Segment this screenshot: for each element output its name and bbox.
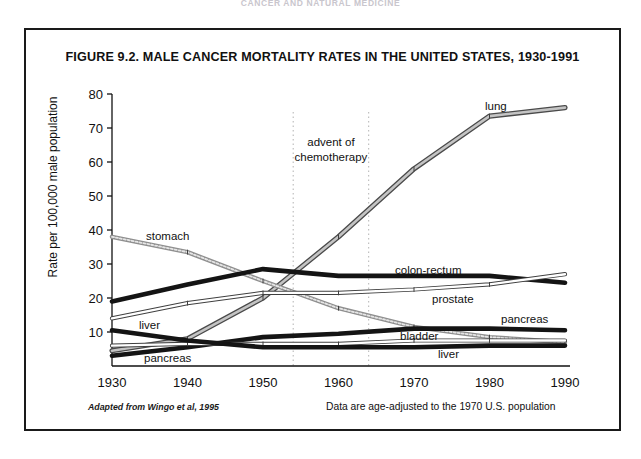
x-tick-label: 1930 — [98, 375, 127, 390]
x-tick-label: 1980 — [475, 375, 504, 390]
annotation-text-line2: chemotherapy — [295, 151, 368, 163]
y-tick-label: 80 — [89, 87, 103, 102]
figure-frame: FIGURE 9.2. MALE CANCER MORTALITY RATES … — [24, 28, 621, 431]
y-tick-label: 10 — [89, 325, 103, 340]
y-tick-label: 60 — [89, 155, 103, 170]
x-tick-label: 1950 — [249, 375, 278, 390]
series-label-prostate: prostate — [432, 293, 474, 305]
y-tick-label: 30 — [89, 257, 103, 272]
series-label-liver-right: liver — [438, 348, 459, 360]
series-band-inner-prostate — [112, 274, 565, 318]
y-tick-label: 20 — [89, 291, 103, 306]
annotation-text-line1: advent of — [307, 136, 355, 148]
series-prostate — [112, 274, 565, 318]
running-head: CANCER AND NATURAL MEDICINE — [0, 0, 641, 9]
series-label-pancreas-right: pancreas — [501, 313, 549, 325]
annotation-advent-of-chemotherapy: advent ofchemotherapy — [293, 112, 369, 366]
x-tick-label: 1940 — [173, 375, 202, 390]
x-tick-label: 1960 — [324, 375, 353, 390]
y-tick-label: 70 — [89, 121, 103, 136]
y-tick-label: 50 — [89, 189, 103, 204]
series-label-bladder: bladder — [400, 330, 439, 342]
series-label-liver-left: liver — [139, 319, 160, 331]
x-tick-label: 1990 — [551, 375, 580, 390]
series-band-outer-stomach — [112, 237, 565, 342]
series-stomach — [112, 237, 565, 342]
figure-page: CANCER AND NATURAL MEDICINE FIGURE 9.2. … — [0, 0, 641, 459]
series-label-stomach: stomach — [146, 230, 189, 242]
series-band-outer-prostate — [112, 274, 565, 318]
x-tick-label: 1970 — [400, 375, 429, 390]
y-tick-label: 40 — [89, 223, 103, 238]
series-label-colon-rectum: colon-rectum — [395, 264, 461, 276]
series-label-lung: lung — [485, 100, 507, 112]
figure-source-note: Adapted from Wingo et al, 1995 — [88, 402, 219, 412]
series-label-pancreas-left: pancreas — [144, 352, 192, 364]
chart-plot-area: advent ofchemotherapy1020304050607080193… — [26, 30, 619, 429]
figure-data-note: Data are age-adjusted to the 1970 U.S. p… — [326, 401, 556, 412]
